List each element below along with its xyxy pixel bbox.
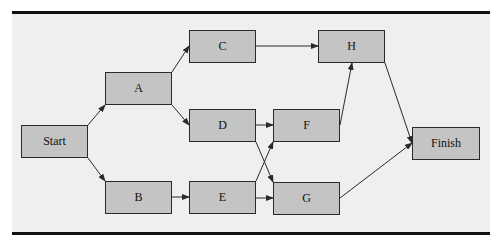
node-label: H (347, 39, 356, 54)
edge-a-to-c (172, 46, 189, 72)
node-label: B (134, 190, 142, 205)
edge-h-to-finish (385, 63, 412, 143)
edge-start-to-b (88, 158, 105, 181)
node-h: H (318, 30, 385, 63)
edge-start-to-a (88, 105, 105, 125)
edge-a-to-d (172, 105, 189, 125)
node-e: E (189, 181, 256, 214)
node-start: Start (21, 125, 88, 158)
node-label: Finish (431, 136, 461, 151)
node-c: C (189, 30, 256, 63)
node-f: F (273, 109, 340, 142)
node-b: B (105, 181, 172, 214)
node-label: G (302, 191, 311, 206)
node-label: Start (43, 134, 66, 149)
node-label: C (218, 39, 226, 54)
node-g: G (273, 182, 340, 215)
node-label: D (218, 118, 227, 133)
node-finish: Finish (412, 127, 480, 160)
node-a: A (105, 72, 172, 105)
node-d: D (189, 109, 256, 142)
node-label: E (219, 190, 226, 205)
node-label: F (303, 118, 310, 133)
edge-g-to-finish (340, 143, 412, 198)
node-label: A (134, 81, 143, 96)
bottom-rule (12, 232, 490, 235)
edge-f-to-h (340, 63, 352, 125)
